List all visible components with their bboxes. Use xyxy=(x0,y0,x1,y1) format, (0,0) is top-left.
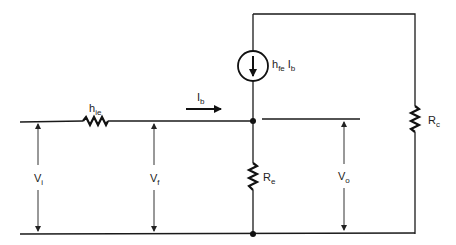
re-resistor-icon xyxy=(249,163,257,190)
ground-node xyxy=(250,231,256,237)
vo-label: Vo xyxy=(338,170,350,185)
current-source-label: hfeIb xyxy=(272,58,296,73)
rc-resistor-icon xyxy=(411,106,419,132)
vf-label: Vf xyxy=(150,172,160,187)
input-wire-left xyxy=(20,121,83,122)
hie-label: hie xyxy=(89,102,102,117)
bottom-wire xyxy=(20,233,415,234)
circuit-diagram: hfeIb hie Ib Re Rc Vi Vf Vo xyxy=(0,0,456,245)
ib-label: Ib xyxy=(197,91,205,106)
vi-label: Vi xyxy=(34,172,43,187)
re-label: Re xyxy=(263,171,276,186)
hie-resistor-icon xyxy=(83,117,108,125)
rc-label: Rc xyxy=(428,114,440,129)
